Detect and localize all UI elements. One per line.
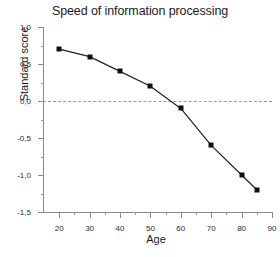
- x-minor-tick-5: [226, 212, 227, 215]
- y-tick-label-3: -0,5: [17, 134, 31, 143]
- x-tick-6: 80: [242, 212, 243, 218]
- data-point-70: [209, 143, 214, 148]
- chart-title: Speed of information processing: [0, 4, 280, 18]
- y-tick-label-1: 0,5: [20, 60, 31, 69]
- data-point-40: [118, 69, 123, 74]
- x-minor-tick-1: [105, 212, 106, 215]
- x-minor-tick-6: [257, 212, 258, 215]
- x-tick-label-3: 50: [146, 224, 155, 233]
- data-point-20: [57, 47, 62, 52]
- plot-area: 1,00,50,0-0,5-1,0-1,5 2030405060708090: [44, 27, 272, 212]
- x-tick-label-1: 30: [85, 224, 94, 233]
- chart-figure: Speed of information processing Standard…: [0, 0, 280, 257]
- y-tick-label-5: -1,5: [17, 208, 31, 217]
- series-line: [44, 27, 272, 212]
- data-point-50: [148, 84, 153, 89]
- y-tick-label-4: -1,0: [17, 171, 31, 180]
- x-minor-tick-0: [74, 212, 75, 215]
- x-minor-tick-2: [135, 212, 136, 215]
- x-tick-0: 20: [59, 212, 60, 218]
- x-tick-4: 60: [181, 212, 182, 218]
- y-tick-label-0: 1,0: [20, 23, 31, 32]
- x-tick-label-7: 90: [268, 224, 277, 233]
- x-axis-spine: [43, 212, 272, 213]
- x-tick-label-4: 60: [176, 224, 185, 233]
- x-tick-label-0: 20: [55, 224, 64, 233]
- data-point-80: [239, 173, 244, 178]
- x-tick-label-5: 70: [207, 224, 216, 233]
- x-tick-3: 50: [150, 212, 151, 218]
- x-tick-label-6: 80: [237, 224, 246, 233]
- x-tick-2: 40: [120, 212, 121, 218]
- x-minor-tick-4: [196, 212, 197, 215]
- x-tick-label-2: 40: [116, 224, 125, 233]
- y-tick-label-2: 0,0: [20, 97, 31, 106]
- data-point-60: [178, 106, 183, 111]
- x-tick-1: 30: [90, 212, 91, 218]
- y-tick-5: -1,5: [38, 212, 44, 213]
- data-point-30: [87, 54, 92, 59]
- x-tick-5: 70: [211, 212, 212, 218]
- x-tick-7: 90: [272, 212, 273, 218]
- data-point-85: [254, 187, 259, 192]
- x-minor-tick-3: [166, 212, 167, 215]
- x-axis-label: Age: [40, 233, 272, 245]
